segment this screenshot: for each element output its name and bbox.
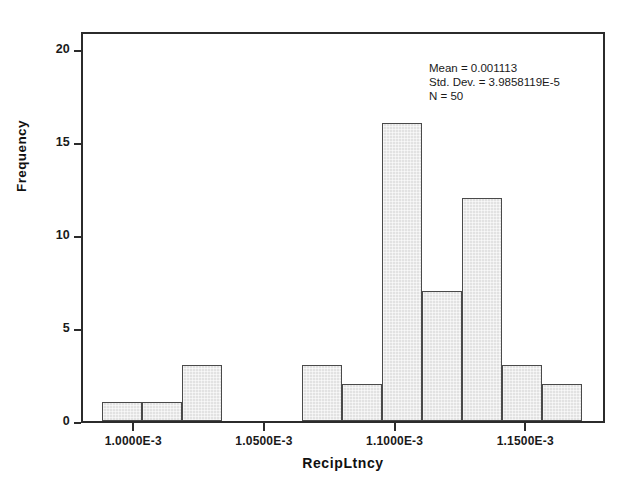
histogram-bar (422, 291, 462, 421)
y-tick-mark (74, 143, 81, 145)
statistics-annotation: Mean = 0.001113 Std. Dev. = 3.9858119E-5… (429, 61, 560, 103)
x-tick-mark (263, 423, 265, 431)
histogram-bar (102, 402, 142, 421)
y-tick-mark (74, 236, 81, 238)
histogram-figure: Frequency 05101520 1.0000E-31.0500E-31.1… (0, 0, 639, 489)
stat-std-dev: Std. Dev. = 3.9858119E-5 (429, 75, 560, 89)
y-tick-label: 20 (56, 42, 70, 56)
x-tick-label: 1.0500E-3 (235, 434, 292, 448)
stat-n: N = 50 (429, 89, 560, 103)
y-tick-mark (74, 422, 81, 424)
histogram-bar (182, 365, 222, 421)
x-tick-mark (132, 423, 134, 431)
y-axis-title: Frequency (14, 120, 29, 192)
y-axis: Frequency 05101520 (0, 32, 81, 423)
histogram-bar (462, 198, 502, 421)
x-tick-label: 1.0000E-3 (105, 434, 162, 448)
stat-mean: Mean = 0.001113 (429, 61, 560, 75)
y-tick-label: 0 (63, 414, 70, 428)
y-tick-label: 5 (63, 321, 70, 335)
x-axis: 1.0000E-31.0500E-31.1000E-31.1500E-3 (81, 423, 605, 453)
histogram-bar (382, 123, 422, 421)
y-tick-label: 10 (56, 228, 70, 242)
x-tick-mark (524, 423, 526, 431)
histogram-bar (502, 365, 542, 421)
x-tick-label: 1.1500E-3 (497, 434, 554, 448)
histogram-bar (542, 384, 582, 421)
histogram-bar (342, 384, 382, 421)
x-tick-label: 1.1000E-3 (366, 434, 423, 448)
y-tick-mark (74, 50, 81, 52)
y-tick-mark (74, 329, 81, 331)
y-tick-label: 15 (56, 135, 70, 149)
histogram-bar (302, 365, 342, 421)
x-tick-mark (394, 423, 396, 431)
x-axis-title: RecipLtncy (81, 455, 605, 471)
histogram-bar (142, 402, 182, 421)
